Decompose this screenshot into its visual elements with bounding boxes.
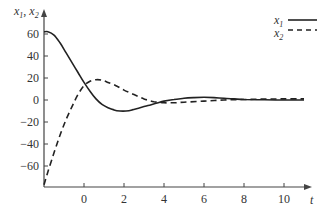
- x-tick-label: 0: [81, 192, 87, 206]
- axis-ticks: 02468106040200−20−40−60: [20, 27, 290, 206]
- legend: x1 x2: [273, 13, 317, 42]
- x-tick-label: 6: [201, 192, 207, 206]
- x-axis-arrow-icon: [304, 184, 312, 190]
- x-axis-title: t: [310, 193, 314, 207]
- y-tick-label: −60: [20, 159, 39, 173]
- y-tick-label: 0: [33, 93, 39, 107]
- y-tick-label: 40: [27, 49, 39, 63]
- x-tick-label: 8: [241, 192, 247, 206]
- y-axis-arrow-icon: [41, 9, 47, 17]
- legend-item-x1: x1: [273, 13, 317, 29]
- y-tick-label: −20: [20, 115, 39, 129]
- y-tick-label: 60: [27, 27, 39, 41]
- data-series: [44, 32, 304, 185]
- x-tick-label: 2: [121, 192, 127, 206]
- x-tick-label: 10: [278, 192, 290, 206]
- y-tick-label: 20: [27, 71, 39, 85]
- x-tick-label: 4: [161, 192, 167, 206]
- series-x2-line: [44, 80, 304, 185]
- line-chart: 02468106040200−20−40−60 x1, x2 t x1 x2: [0, 0, 332, 220]
- y-tick-label: −40: [20, 137, 39, 151]
- y-axis-title: x1, x2: [13, 4, 39, 20]
